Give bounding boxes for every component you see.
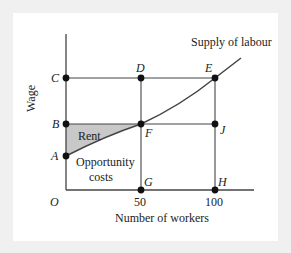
- opportunity-costs-label-line2: costs: [89, 170, 113, 184]
- label-f: F: [144, 126, 153, 140]
- point-j: [212, 121, 219, 128]
- point-e: [212, 75, 219, 82]
- label-e: E: [204, 61, 213, 75]
- x-tick-100: 100: [205, 195, 223, 209]
- origin-label: O: [50, 195, 59, 209]
- x-axis-label: Number of workers: [115, 211, 209, 225]
- supply-curve-label: Supply of labour: [191, 35, 272, 49]
- label-b: B: [52, 117, 60, 131]
- opportunity-costs-label-line1: Opportunity: [76, 155, 135, 169]
- point-d: [138, 75, 145, 82]
- point-c: [63, 75, 70, 82]
- point-f: [138, 121, 145, 128]
- y-axis-label: Wage: [24, 85, 38, 112]
- economic-rent-diagram: C D E B F J A G H Rent Opportunity costs…: [0, 0, 291, 253]
- point-a: [63, 153, 70, 160]
- label-h: H: [217, 175, 228, 189]
- rent-label: Rent: [78, 129, 101, 143]
- label-c: C: [51, 71, 60, 85]
- label-d: D: [135, 61, 145, 75]
- label-j: J: [220, 123, 226, 137]
- label-g: G: [144, 175, 153, 189]
- x-tick-50: 50: [134, 195, 146, 209]
- label-a: A: [50, 149, 59, 163]
- point-b: [63, 121, 70, 128]
